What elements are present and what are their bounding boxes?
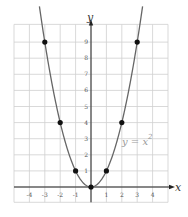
y-tick-label: 5 [84, 103, 88, 110]
x-tick-label: -4 [26, 191, 32, 198]
equation-label: y = x [121, 136, 148, 147]
data-point [73, 168, 78, 173]
x-tick-label: -1 [73, 191, 79, 198]
y-tick-label: 6 [84, 86, 88, 93]
data-point [135, 40, 140, 45]
y-tick-label: 7 [84, 70, 88, 77]
y-axis-label: y [86, 11, 94, 24]
equation-exponent: 2 [147, 133, 153, 141]
x-tick-label: 3 [135, 191, 139, 198]
y-tick-label: 4 [84, 119, 88, 126]
parabola-chart: -4-3-2-11234123456789 y x y = x 2 [0, 0, 188, 217]
data-point [58, 120, 63, 125]
y-tick-label: 9 [84, 38, 88, 45]
x-tick-label: -2 [57, 191, 63, 198]
data-point [119, 120, 124, 125]
data-point [42, 40, 47, 45]
x-tick-label: 1 [104, 191, 108, 198]
data-point [88, 184, 93, 189]
x-tick-label: 2 [120, 191, 124, 198]
x-axis-label: x [175, 181, 182, 194]
x-tick-label: -3 [42, 191, 48, 198]
y-tick-label: 8 [84, 54, 88, 61]
x-tick-label: 4 [151, 191, 155, 198]
data-point [104, 168, 109, 173]
y-tick-label: 1 [84, 167, 88, 174]
y-tick-label: 2 [84, 151, 88, 158]
axes [14, 19, 175, 202]
y-tick-label: 3 [84, 135, 88, 142]
